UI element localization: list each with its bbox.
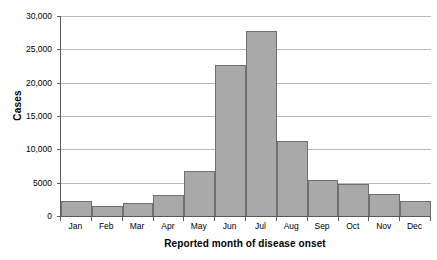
- y-axis-tick-label: 25,000: [26, 45, 52, 54]
- x-axis-tick-label-jan: Jan: [60, 221, 91, 231]
- bar-aug: [277, 141, 308, 216]
- x-axis-tick-label-aug: Aug: [276, 221, 307, 231]
- bar-slot: [61, 16, 92, 216]
- bar-slot: [92, 16, 123, 216]
- bar-jan: [61, 201, 92, 216]
- y-axis-tick-label: 0: [47, 212, 52, 221]
- y-axis-tick-mark: [57, 149, 60, 150]
- x-axis-tick-mark: [430, 217, 431, 221]
- bar-oct: [338, 184, 369, 216]
- y-axis-tick-mark: [57, 83, 60, 84]
- bar-dec: [400, 201, 431, 216]
- bar-nov: [369, 194, 400, 216]
- bar-slot: [308, 16, 339, 216]
- bar-mar: [123, 203, 154, 216]
- plot-area: [60, 16, 431, 217]
- y-axis-tick-mark: [57, 49, 60, 50]
- y-axis-tick-label: 20,000: [26, 78, 52, 87]
- bar-apr: [153, 195, 184, 216]
- bar-slot: [246, 16, 277, 216]
- x-axis-tick-labels: JanFebMarAprMayJunJulAugSepOctNovDec: [60, 221, 430, 231]
- y-axis-tick-mark: [57, 116, 60, 117]
- y-axis-tick-label: 15,000: [26, 112, 52, 121]
- bar-jun: [215, 65, 246, 216]
- y-axis-tick-label: 30,000: [26, 12, 52, 21]
- bar-may: [184, 171, 215, 216]
- y-axis-tick-mark: [57, 183, 60, 184]
- x-axis-tick-label-mar: Mar: [122, 221, 153, 231]
- x-axis-tick-label-sep: Sep: [307, 221, 338, 231]
- bar-slot: [400, 16, 431, 216]
- bars-container: [61, 16, 431, 216]
- x-axis-tick-label-may: May: [183, 221, 214, 231]
- bar-slot: [215, 16, 246, 216]
- x-axis-tick-label-oct: Oct: [337, 221, 368, 231]
- bar-jul: [246, 31, 277, 216]
- bar-slot: [277, 16, 308, 216]
- x-axis-tick-label-feb: Feb: [91, 221, 122, 231]
- y-axis-tick-mark: [57, 216, 60, 217]
- bar-slot: [123, 16, 154, 216]
- bar-slot: [184, 16, 215, 216]
- bar-feb: [92, 206, 123, 216]
- x-axis-tick-label-apr: Apr: [152, 221, 183, 231]
- bar-slot: [153, 16, 184, 216]
- bar-slot: [338, 16, 369, 216]
- y-axis-tick-label: 10,000: [26, 145, 52, 154]
- y-axis-tick-label: 5000: [33, 178, 52, 187]
- x-axis-tick-label-jul: Jul: [245, 221, 276, 231]
- x-axis-tick-label-dec: Dec: [399, 221, 430, 231]
- y-axis-tick-mark: [57, 16, 60, 17]
- x-axis-title: Reported month of disease onset: [60, 238, 430, 249]
- x-axis-tick-label-jun: Jun: [214, 221, 245, 231]
- y-axis-tick-labels: 0500010,00015,00020,00025,00030,000: [0, 0, 57, 260]
- x-axis-tick-label-nov: Nov: [368, 221, 399, 231]
- bar-slot: [369, 16, 400, 216]
- bar-sep: [308, 180, 339, 216]
- bar-chart-figure: Cases 0500010,00015,00020,00025,00030,00…: [0, 0, 437, 260]
